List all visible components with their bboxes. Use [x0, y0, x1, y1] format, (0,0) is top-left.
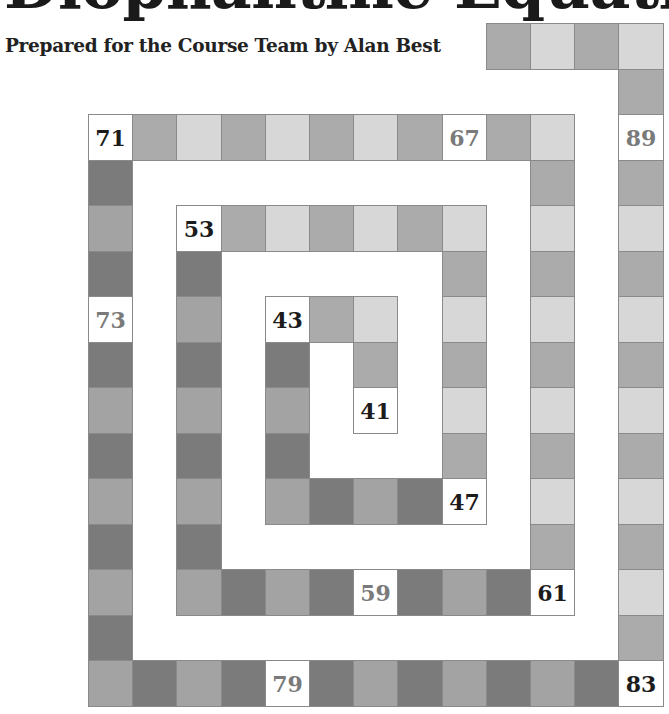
spiral-cell	[353, 478, 398, 525]
cell-number: 67	[449, 125, 480, 151]
spiral-cell	[442, 569, 487, 616]
spiral-cell	[530, 23, 575, 70]
spiral-cell	[176, 114, 222, 161]
spiral-cell	[530, 524, 575, 570]
spiral-cell	[530, 296, 575, 343]
number-cell-61: 61	[530, 569, 575, 616]
cell-number: 41	[360, 398, 391, 424]
spiral-cell	[88, 569, 133, 616]
spiral-cell	[221, 114, 266, 161]
spiral-cell	[353, 114, 398, 161]
spiral-cell	[176, 342, 222, 388]
spiral-cell	[176, 524, 222, 570]
spiral-cell	[574, 660, 619, 707]
spiral-cell	[442, 205, 487, 252]
spiral-cell	[530, 251, 575, 297]
spiral-cell	[397, 569, 443, 616]
spiral-cell	[132, 114, 177, 161]
spiral-cell	[442, 251, 487, 297]
spiral-cell	[265, 387, 310, 434]
spiral-cell	[574, 23, 619, 70]
spiral-cell	[397, 660, 443, 707]
spiral-cell	[88, 160, 133, 206]
spiral-cell	[397, 478, 443, 525]
number-cell-43: 43	[265, 296, 310, 343]
spiral-cell	[442, 342, 487, 388]
spiral-cell	[442, 296, 487, 343]
spiral-cell	[530, 160, 575, 206]
spiral-cell	[88, 615, 133, 661]
spiral-cell	[221, 569, 266, 616]
number-cell-73: 73	[88, 296, 133, 343]
spiral-cell	[442, 660, 487, 707]
spiral-cell	[618, 387, 664, 434]
spiral-cell	[618, 433, 664, 479]
spiral-cell	[176, 569, 222, 616]
spiral-cell	[530, 342, 575, 388]
spiral-cell	[176, 433, 222, 479]
spiral-cell	[309, 660, 354, 707]
spiral-cell	[221, 660, 266, 707]
cell-number: 79	[272, 671, 303, 697]
spiral-cell	[176, 478, 222, 525]
spiral-cell	[88, 433, 133, 479]
number-cell-89: 89	[618, 114, 664, 161]
spiral-cell	[618, 524, 664, 570]
spiral-cell	[618, 296, 664, 343]
spiral-cell	[530, 387, 575, 434]
spiral-cell	[353, 660, 398, 707]
spiral-cell	[176, 296, 222, 343]
spiral-cell	[618, 615, 664, 661]
spiral-cell	[618, 569, 664, 616]
spiral-cell	[530, 478, 575, 525]
spiral-cell	[530, 660, 575, 707]
spiral-cell	[309, 478, 354, 525]
spiral-cell	[486, 23, 531, 70]
spiral-cell	[88, 524, 133, 570]
cell-number: 89	[626, 125, 657, 151]
spiral-cell	[618, 160, 664, 206]
number-cell-41: 41	[353, 387, 398, 434]
spiral-cell	[309, 569, 354, 616]
spiral-cell	[176, 387, 222, 434]
spiral-cell	[618, 478, 664, 525]
spiral-cell	[442, 387, 487, 434]
number-cell-53: 53	[176, 205, 222, 252]
spiral-cell	[618, 23, 664, 70]
spiral-cell	[530, 114, 575, 161]
spiral-cell	[88, 478, 133, 525]
spiral-cell	[88, 342, 133, 388]
spiral-cell	[353, 296, 398, 343]
spiral-cell	[132, 660, 177, 707]
number-cell-79: 79	[265, 660, 310, 707]
spiral-cell	[486, 114, 531, 161]
spiral-cell	[88, 387, 133, 434]
cell-number: 71	[95, 125, 126, 151]
spiral-cell	[530, 433, 575, 479]
spiral-cell	[486, 569, 531, 616]
spiral-cell	[221, 205, 266, 252]
spiral-cell	[618, 69, 664, 115]
cell-number: 47	[449, 489, 480, 515]
number-cell-59: 59	[353, 569, 398, 616]
number-cell-67: 67	[442, 114, 487, 161]
spiral-cell	[176, 660, 222, 707]
spiral-cell	[265, 114, 310, 161]
spiral-cell	[265, 433, 310, 479]
cell-number: 43	[272, 307, 303, 333]
spiral-cell	[353, 342, 398, 388]
spiral-cell	[353, 205, 398, 252]
cell-number: 53	[184, 216, 215, 242]
spiral-cell	[397, 114, 443, 161]
spiral-cell	[265, 569, 310, 616]
cell-number: 73	[95, 307, 126, 333]
spiral-cell	[618, 205, 664, 252]
spiral-cell	[88, 251, 133, 297]
spiral-cell	[309, 114, 354, 161]
spiral-cell	[618, 342, 664, 388]
number-cell-47: 47	[442, 478, 487, 525]
spiral-cell	[176, 251, 222, 297]
spiral-cell	[265, 342, 310, 388]
spiral-cell	[442, 433, 487, 479]
spiral-cell	[265, 205, 310, 252]
